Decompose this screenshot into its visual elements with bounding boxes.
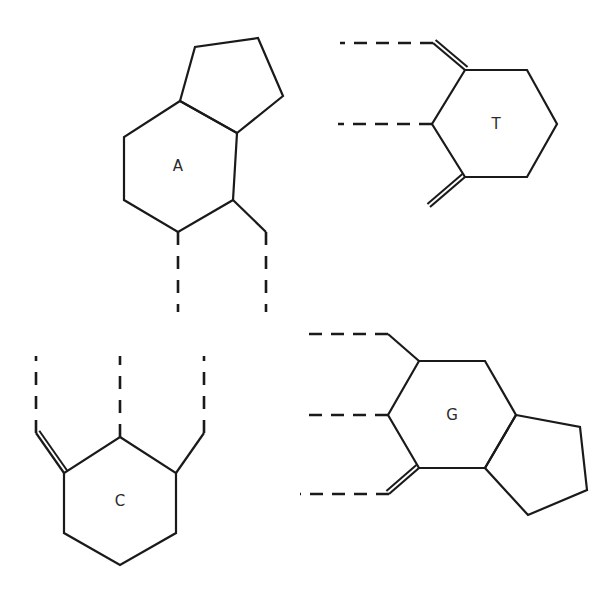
structures-group: ATCG xyxy=(36,38,587,565)
structure-thymine: T xyxy=(338,40,557,207)
double-bond-lower-left-line-b xyxy=(386,465,416,491)
adenine-ring-label: A xyxy=(173,157,184,175)
double-bond-left-line-b xyxy=(39,431,67,471)
adenine-substituent-bond-right xyxy=(233,200,266,232)
double-bond-lower-left-line-a xyxy=(389,468,419,494)
thymine-ring-label: T xyxy=(490,115,501,133)
guanine-double-bond-lower-left xyxy=(386,465,419,494)
diagram-canvas: ATCG xyxy=(0,0,614,594)
adenine-five-membered-ring xyxy=(180,38,283,133)
structure-adenine: A xyxy=(124,38,283,312)
double-bond-left-line-a xyxy=(36,433,64,473)
double-bond-lower-left-line-b xyxy=(427,174,462,204)
cytosine-double-bond-left xyxy=(36,431,67,473)
structure-guanine: G xyxy=(300,334,587,515)
double-bond-upper-left-line-b xyxy=(436,40,468,67)
structure-cytosine: C xyxy=(36,356,204,565)
guanine-five-membered-ring xyxy=(485,415,587,515)
cytosine-substituent-bond-right xyxy=(176,433,204,473)
guanine-substituent-bond-upper-left xyxy=(388,334,419,361)
cytosine-ring-label: C xyxy=(115,492,125,510)
guanine-ring-label: G xyxy=(446,406,458,424)
double-bond-upper-left-line-a xyxy=(433,43,465,70)
double-bond-lower-left-line-a xyxy=(430,177,465,207)
thymine-double-bond-lower-left xyxy=(427,174,465,207)
thymine-double-bond-upper-left xyxy=(433,40,468,70)
molecule-diagram-svg: ATCG xyxy=(0,0,614,594)
